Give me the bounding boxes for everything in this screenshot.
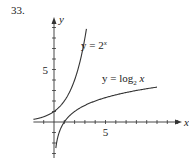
y-tick-label: 5 xyxy=(43,64,49,76)
y-axis-label: y xyxy=(58,13,64,25)
log-curve xyxy=(56,87,157,148)
log-curve-label: y = log2 x xyxy=(102,72,145,87)
exp-curve-label: y = 2x xyxy=(81,39,108,51)
y-axis-arrow-icon xyxy=(52,17,57,24)
x-axis-arrow-icon xyxy=(175,120,182,125)
graph: 55xyy = 2xy = log2 x xyxy=(0,0,189,168)
x-axis-label: x xyxy=(183,116,189,128)
labels: 55xyy = 2xy = log2 x xyxy=(43,13,190,138)
exp-curve xyxy=(33,29,86,120)
x-tick-label: 5 xyxy=(103,126,109,138)
